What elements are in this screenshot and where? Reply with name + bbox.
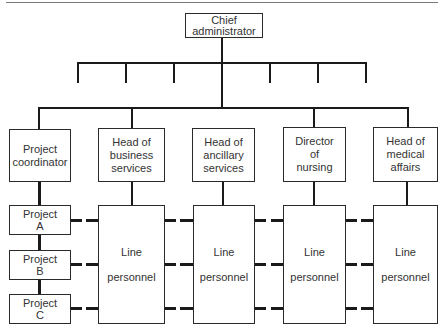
line-personnel-box-medical: Line personnel — [373, 205, 438, 324]
dashed-connector — [71, 219, 82, 222]
line-label: Line — [121, 246, 142, 259]
business-to-line-line — [131, 182, 133, 205]
head-of-medical-affairs-box: Head of medical affairs — [373, 127, 438, 182]
head-label: services — [203, 162, 243, 175]
dashed-connector — [71, 263, 82, 266]
line-label: Line — [304, 246, 325, 259]
line-personnel-box-nursing: Line personnel — [283, 205, 346, 324]
dashed-connector — [346, 219, 357, 222]
dashed-connector — [271, 219, 283, 222]
project-a-box: Project A — [9, 205, 71, 235]
distribution-bar — [38, 107, 409, 109]
head-label: coordinator — [12, 156, 67, 169]
comb-drop — [269, 62, 271, 83]
drop-nursing — [313, 107, 315, 128]
comb-drop — [173, 62, 175, 83]
comb-bar — [77, 62, 367, 64]
project-label: Project — [23, 208, 57, 220]
dashed-connector — [86, 263, 98, 266]
line-label: Line — [214, 246, 235, 259]
head-label: business — [110, 149, 153, 162]
medical-to-line-line — [406, 182, 408, 205]
line-personnel-box-business: Line personnel — [98, 205, 165, 324]
dashed-connector — [271, 263, 283, 266]
line-label: personnel — [290, 271, 338, 284]
comb-drop — [317, 62, 319, 83]
drop-coordinator — [38, 107, 40, 129]
dashed-connector — [180, 219, 193, 222]
trunk-line — [221, 38, 223, 109]
head-label: medical — [387, 148, 425, 161]
comb-drop — [125, 62, 127, 83]
project-b-box: Project B — [9, 250, 71, 280]
drop-business — [131, 107, 133, 129]
project-c-box: Project C — [9, 294, 71, 324]
drop-medical — [407, 107, 409, 128]
dashed-connector — [346, 307, 357, 310]
comb-drop — [365, 62, 367, 83]
dashed-connector — [165, 307, 176, 310]
head-label: nursing — [296, 161, 332, 174]
project-label: Project — [23, 253, 57, 265]
head-of-ancillary-services-box: Head of ancillary services — [192, 128, 255, 182]
nursing-to-line-line — [313, 182, 315, 205]
comb-drop — [77, 62, 79, 83]
director-of-nursing-box: Director of nursing — [283, 127, 346, 182]
top-rule — [6, 2, 438, 3]
chief-line2: administrator — [192, 26, 256, 37]
dashed-connector — [346, 263, 357, 266]
dashed-connector — [180, 263, 193, 266]
head-label: Head of — [112, 136, 151, 149]
project-label: Project — [23, 297, 57, 309]
dashed-connector — [361, 307, 373, 310]
line-label: personnel — [200, 271, 248, 284]
head-label: Director — [295, 135, 334, 148]
head-label: Head of — [386, 135, 425, 148]
project-label: B — [36, 265, 43, 277]
dashed-connector — [271, 307, 283, 310]
chief-administrator-box: Chief administrator — [185, 13, 263, 38]
dashed-connector — [71, 307, 82, 310]
head-label: ancillary — [203, 149, 243, 162]
head-label: of — [310, 148, 319, 161]
dashed-connector — [86, 219, 98, 222]
dashed-connector — [255, 263, 266, 266]
head-label: services — [111, 162, 151, 175]
head-of-business-services-box: Head of business services — [98, 128, 165, 182]
line-personnel-box-ancillary: Line personnel — [193, 205, 255, 324]
chief-line1: Chief — [211, 15, 237, 26]
line-label: personnel — [107, 271, 155, 284]
line-label: Line — [395, 246, 416, 259]
head-label: affairs — [391, 161, 421, 174]
project-label: C — [36, 309, 44, 321]
dashed-connector — [361, 263, 373, 266]
dashed-connector — [86, 307, 98, 310]
ancillary-to-line-line — [222, 182, 224, 205]
dashed-connector — [180, 307, 193, 310]
dashed-connector — [255, 219, 266, 222]
head-label: Head of — [204, 136, 243, 149]
project-coordinator-box: Project coordinator — [9, 129, 71, 182]
project-label: A — [36, 220, 43, 232]
dashed-connector — [361, 219, 373, 222]
head-label: Project — [23, 143, 57, 156]
dashed-connector — [165, 219, 176, 222]
dashed-connector — [255, 307, 266, 310]
line-label: personnel — [381, 271, 429, 284]
dashed-connector — [165, 263, 176, 266]
